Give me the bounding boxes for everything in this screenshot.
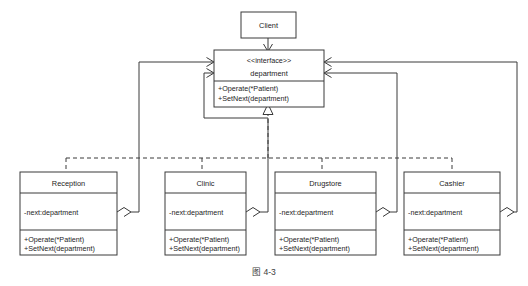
interface-title: department <box>250 69 287 78</box>
class-box-reception[interactable]: Reception -next:department +Operate(*Pat… <box>20 172 117 255</box>
cashier-operation-1: +SetNext(department) <box>408 244 479 253</box>
drugstore-operation-0: +Operate(*Patient) <box>279 235 339 244</box>
clinic-attribute-0: -next:department <box>169 208 223 217</box>
client-title: Client <box>259 21 278 30</box>
cashier-title: Cashier <box>439 179 465 188</box>
cashier-operation-0: +Operate(*Patient) <box>408 235 468 244</box>
class-box-drugstore[interactable]: Drugstore -next:department +Operate(*Pat… <box>275 172 376 255</box>
figure-caption: 图 4-3 <box>252 267 276 277</box>
drugstore-title: Drugstore <box>309 179 341 188</box>
reception-title: Reception <box>52 179 85 188</box>
clinic-title: Clinic <box>196 179 214 188</box>
interface-operation-0: +Operate(*Patient) <box>218 84 278 93</box>
connector-client-to-interface <box>264 38 273 52</box>
drugstore-operation-1: +SetNext(department) <box>279 244 350 253</box>
clinic-operation-0: +Operate(*Patient) <box>169 235 229 244</box>
interface-stereotype: <<interface>> <box>247 56 291 65</box>
class-box-client[interactable]: Client <box>241 12 296 38</box>
drugstore-attribute-0: -next:department <box>279 208 333 217</box>
class-box-cashier[interactable]: Cashier -next:department +Operate(*Patie… <box>404 172 500 255</box>
reception-operation-1: +SetNext(department) <box>24 244 95 253</box>
cashier-attribute-0: -next:department <box>408 208 462 217</box>
clinic-operation-1: +SetNext(department) <box>169 244 240 253</box>
interface-operation-1: +SetNext(department) <box>218 94 289 103</box>
reception-attribute-0: -next:department <box>24 208 78 217</box>
connector-realization-bus <box>66 104 452 172</box>
class-box-interface-department[interactable]: <<interface>> department +Operate(*Patie… <box>214 50 324 107</box>
class-box-clinic[interactable]: Clinic -next:department +Operate(*Patien… <box>165 172 246 255</box>
uml-class-diagram: Client <<interface>> department +Operate… <box>0 0 528 286</box>
reception-operation-0: +Operate(*Patient) <box>24 235 84 244</box>
diagram-canvas: Client <<interface>> department +Operate… <box>0 0 528 286</box>
